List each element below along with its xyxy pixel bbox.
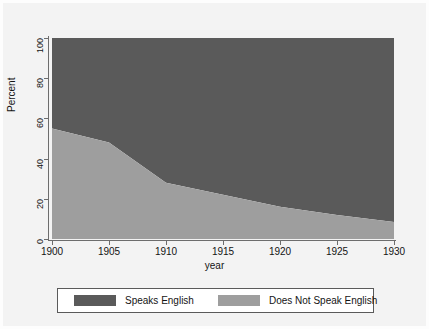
x-tick-mark <box>223 241 224 245</box>
x-tick-mark <box>280 241 281 245</box>
y-tick-label-wrap: 40 <box>0 154 42 164</box>
plot-area <box>52 38 394 239</box>
legend-swatch-speaks-english <box>74 295 116 306</box>
x-tick-label: 1900 <box>41 246 63 257</box>
y-tick-label-wrap: 100 <box>0 33 42 43</box>
x-tick-mark <box>166 241 167 245</box>
x-axis-title: year <box>0 260 429 271</box>
y-axis-title: Percent <box>6 78 17 112</box>
legend-swatch-does-not-speak-english <box>218 295 260 306</box>
y-tick-label: 20 <box>35 199 45 209</box>
x-tick-label: 1910 <box>155 246 177 257</box>
legend-label-speaks-english: Speaks English <box>125 295 194 306</box>
x-tick-label: 1930 <box>383 246 405 257</box>
x-tick-label: 1925 <box>326 246 348 257</box>
y-tick-label: 80 <box>35 78 45 88</box>
y-tick-label-wrap: 20 <box>0 194 42 204</box>
x-tick-label: 1915 <box>212 246 234 257</box>
chart-figure: 020406080100 190019051910191519201925193… <box>0 0 429 329</box>
y-axis-line <box>48 36 49 241</box>
x-tick-mark <box>394 241 395 245</box>
chart-legend: Speaks English Does Not Speak English <box>57 288 374 313</box>
x-tick-label: 1905 <box>98 246 120 257</box>
legend-item-speaks-english[interactable]: Speaks English <box>74 289 194 312</box>
stacked-area-svg <box>52 38 394 239</box>
legend-label-does-not-speak-english: Does Not Speak English <box>269 295 377 306</box>
x-tick-mark <box>109 241 110 245</box>
y-tick-label: 40 <box>35 159 45 169</box>
x-tick-label: 1920 <box>269 246 291 257</box>
x-tick-mark <box>52 241 53 245</box>
y-tick-label: 60 <box>35 118 45 128</box>
y-tick-label-wrap: 0 <box>0 234 42 244</box>
legend-item-does-not-speak-english[interactable]: Does Not Speak English <box>218 289 377 312</box>
x-axis-line <box>48 240 396 241</box>
x-tick-mark <box>337 241 338 245</box>
y-tick-label: 100 <box>35 38 45 53</box>
plot-region <box>52 38 394 239</box>
y-tick-label: 0 <box>35 239 45 244</box>
y-tick-label-wrap: 60 <box>0 113 42 123</box>
